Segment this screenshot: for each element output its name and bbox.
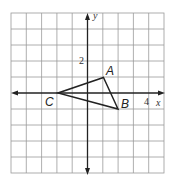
- y-tick-label-2: 2: [79, 55, 84, 66]
- coordinate-plane: [0, 0, 174, 181]
- vertex-label-a: A: [106, 64, 114, 78]
- x-axis-label: x: [156, 97, 160, 108]
- y-axis-label: y: [93, 10, 97, 21]
- y-axis-down-arrow-icon: [85, 168, 90, 175]
- x-tick-label-4: 4: [144, 96, 149, 107]
- vertex-label-b: B: [121, 97, 129, 111]
- y-axis-up-arrow-icon: [85, 13, 90, 20]
- vertex-label-c: C: [45, 95, 54, 109]
- x-axis-left-arrow-icon: [11, 91, 18, 96]
